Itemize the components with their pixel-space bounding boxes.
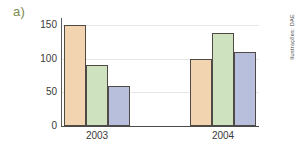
bar-2003-series-2: [86, 65, 108, 126]
y-axis-tick-labels: 050100150: [20, 0, 57, 152]
gridline: [62, 25, 259, 26]
figure-panel: a) 050100150 Ilustrações: DAE 20032004: [0, 0, 296, 152]
bar-2004-series-3: [234, 52, 256, 126]
bar-2004-series-1: [190, 59, 212, 127]
x-axis-tick-label: 2004: [203, 131, 243, 141]
x-axis-tick-label: 2003: [77, 131, 117, 141]
bar-2004-series-2: [212, 33, 234, 126]
y-axis-tick-label: 50: [23, 87, 57, 97]
illustration-credit: Ilustrações: DAE: [289, 14, 295, 60]
y-axis-tick-label: 100: [23, 54, 57, 64]
plot-area: [62, 18, 259, 126]
y-axis-tick-label: 150: [23, 20, 57, 30]
bar-2003-series-1: [64, 25, 86, 126]
x-axis-line: [61, 126, 259, 127]
y-axis-tick-label: 0: [23, 121, 57, 131]
bar-2003-series-3: [108, 86, 130, 127]
